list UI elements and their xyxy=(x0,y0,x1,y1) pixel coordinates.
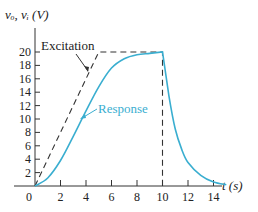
excitation-series xyxy=(35,52,163,186)
x-tick-label: 6 xyxy=(109,190,115,204)
response-arrowhead-icon xyxy=(80,114,86,119)
y-tick-label: 12 xyxy=(19,99,31,113)
y-tick-label: 18 xyxy=(19,58,31,72)
chart: 2468101214161820 02468101214 vₒ, vᵢ (V) … xyxy=(0,0,258,212)
x-tick-label: 0 xyxy=(26,190,32,204)
excitation-label: Excitation xyxy=(41,38,95,53)
x-tick-label: 12 xyxy=(182,190,194,204)
y-tick-label: 14 xyxy=(19,85,31,99)
x-tick-label: 8 xyxy=(134,190,140,204)
x-axis-label: t (s) xyxy=(222,178,243,193)
y-tick-label: 2 xyxy=(25,166,31,180)
y-tick-label: 16 xyxy=(19,72,31,86)
x-tick-label: 2 xyxy=(58,190,64,204)
y-tick-label: 4 xyxy=(25,152,31,166)
excitation-arrowhead-icon xyxy=(84,66,89,72)
y-tick-label: 8 xyxy=(25,125,31,139)
response-label: Response xyxy=(98,101,148,116)
y-tick-label: 20 xyxy=(19,45,31,59)
y-axis-label: vₒ, vᵢ (V) xyxy=(5,7,49,22)
x-tick-label: 4 xyxy=(83,190,89,204)
y-ticks: 2468101214161820 xyxy=(19,45,40,180)
x-ticks: 02468101214 xyxy=(26,180,220,204)
y-tick-label: 6 xyxy=(25,139,31,153)
x-tick-label: 14 xyxy=(208,190,220,204)
x-tick-label: 10 xyxy=(157,190,169,204)
response-series xyxy=(35,52,226,186)
y-tick-label: 10 xyxy=(19,112,31,126)
